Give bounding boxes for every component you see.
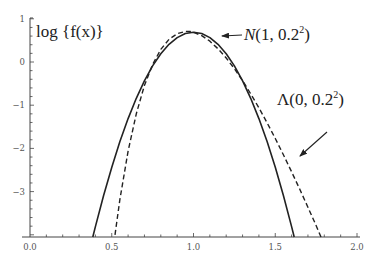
annotation-normal: N(1, 0.22) bbox=[244, 24, 310, 45]
y-tick-label: 1 bbox=[20, 14, 25, 24]
lognormal-close-paren: ) bbox=[338, 90, 344, 109]
y-axis-label: log {f(x)} bbox=[36, 22, 104, 42]
y-tick-label: −3 bbox=[12, 187, 25, 197]
normal-symbol: N bbox=[244, 25, 255, 44]
y-tick-label: 0 bbox=[20, 57, 25, 67]
lognormal-symbol: Λ bbox=[277, 90, 289, 109]
lognormal-params: (0, 0.2 bbox=[289, 90, 333, 109]
normal-arrow bbox=[222, 35, 242, 36]
x-tick-label: 1.5 bbox=[268, 242, 282, 252]
x-tick-label: 1.0 bbox=[187, 242, 201, 252]
normal-close-paren: ) bbox=[304, 25, 310, 44]
normal-params: (1, 0.2 bbox=[255, 25, 299, 44]
x-tick-label: 0.0 bbox=[23, 242, 37, 252]
normal-curve bbox=[93, 32, 294, 237]
curves bbox=[93, 31, 321, 237]
x-tick-label: 0.5 bbox=[105, 242, 119, 252]
y-tick-label: −1 bbox=[12, 100, 25, 110]
axes: 0.00.51.01.52.010−1−2−3 bbox=[12, 14, 363, 252]
x-tick-label: 2.0 bbox=[350, 242, 364, 252]
lognormal-curve bbox=[115, 31, 321, 237]
y-tick-label: −2 bbox=[12, 143, 25, 153]
lognormal-arrow bbox=[300, 132, 327, 156]
annotation-lognormal: Λ(0, 0.22) bbox=[277, 89, 344, 110]
